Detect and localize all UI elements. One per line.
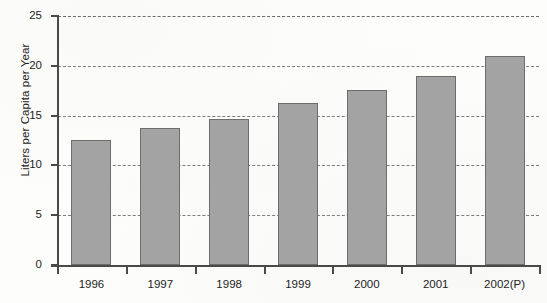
gridline-25	[58, 16, 539, 17]
plot-area: 0510152025 1996199719981999200020012002(…	[57, 16, 539, 265]
y-tick-20: 20	[51, 65, 59, 67]
x-tick-label-1997: 1997	[147, 278, 173, 290]
x-tick-7	[539, 265, 541, 274]
y-tick-label-10: 10	[29, 158, 42, 170]
x-tick-0	[57, 265, 59, 274]
bar-2000	[347, 90, 387, 265]
y-tick-label-20: 20	[29, 59, 42, 71]
x-tick-1	[126, 265, 128, 274]
x-tick-label-2002(P): 2002(P)	[484, 278, 525, 290]
x-tick-5	[401, 265, 403, 274]
x-tick-label-1998: 1998	[216, 278, 242, 290]
bar-1998	[209, 119, 249, 265]
x-tick-label-2000: 2000	[354, 278, 380, 290]
x-tick-2	[195, 265, 197, 274]
y-axis-line	[57, 15, 59, 266]
x-tick-6	[470, 265, 472, 274]
bar-2001	[416, 76, 456, 265]
y-tick-15: 15	[51, 115, 59, 117]
x-tick-label-1996: 1996	[79, 278, 105, 290]
gridline-20	[58, 66, 539, 67]
y-tick-label-25: 25	[29, 9, 42, 21]
y-tick-25: 25	[51, 15, 59, 17]
bar-1996	[71, 140, 111, 265]
y-tick-label-15: 15	[29, 109, 42, 121]
bar-chart-figure: Liters per Capita per Year 0510152025 19…	[0, 0, 547, 303]
y-tick-10: 10	[51, 164, 59, 166]
bar-1999	[278, 103, 318, 265]
bar-2002(P)	[485, 56, 525, 265]
x-axis-line	[51, 265, 541, 267]
y-tick-label-0: 0	[36, 258, 42, 270]
bar-1997	[140, 128, 180, 265]
y-tick-5: 5	[51, 214, 59, 216]
x-tick-label-1999: 1999	[285, 278, 311, 290]
y-tick-label-5: 5	[36, 208, 42, 220]
x-tick-3	[264, 265, 266, 274]
x-tick-label-2001: 2001	[423, 278, 449, 290]
x-tick-4	[332, 265, 334, 274]
